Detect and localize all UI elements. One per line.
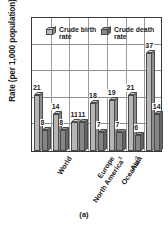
bar-value-label: 8 <box>59 119 64 127</box>
vertical-gridline <box>107 18 108 151</box>
bar-value-label: 19 <box>107 89 116 97</box>
bar-front-face <box>60 130 66 151</box>
bar-front-face <box>116 132 122 151</box>
bar-death-latin-america-and-the-caribbean <box>135 135 141 151</box>
bar-death-africa <box>154 114 160 151</box>
bar-front-face <box>42 130 48 151</box>
y-axis-title: Rate (per 1,000 population) <box>8 0 17 110</box>
bar-death-oceania <box>98 132 104 151</box>
vertical-gridline <box>51 18 52 151</box>
bar-death-north-america <box>60 130 66 151</box>
bar-birth-europe <box>71 122 77 151</box>
figure-panel: Rate (per 1,000 population) 01020304050 … <box>0 0 168 227</box>
bar-value-label: 18 <box>89 92 98 100</box>
cube-icon <box>46 27 55 35</box>
bar-front-face <box>135 135 141 151</box>
bar-value-label: 14 <box>51 103 60 111</box>
bar-side-face <box>160 111 163 151</box>
x-axis-label-world: World <box>57 155 74 176</box>
x-axis-label-latin-america-and-the-caribbean: Latin America and the Caribbean <box>166 155 168 214</box>
bar-death-asia <box>116 132 122 151</box>
bar-value-label: 14 <box>152 103 161 111</box>
bar-value-label: 21 <box>32 84 41 92</box>
bar-value-label: 7 <box>115 121 120 129</box>
bar-front-face <box>79 122 85 151</box>
bar-death-world <box>42 130 48 151</box>
bar-value-label: 11 <box>77 111 85 119</box>
bar-value-label: 8 <box>40 119 45 127</box>
figure-caption: (a) <box>0 210 168 219</box>
bar-front-face <box>98 132 104 151</box>
cube-icon <box>101 27 110 35</box>
bar-value-label: 6 <box>134 124 139 132</box>
bar-value-label: 7 <box>96 121 101 129</box>
legend-label-birth: Crude birthrate <box>59 26 96 41</box>
legend-label-death: Crude deathrate <box>114 26 154 41</box>
plot-area: 21814811111871972163714 Crude birthrate … <box>31 17 162 152</box>
bar-value-label: 37 <box>145 42 154 50</box>
bar-death-europe <box>79 122 85 151</box>
bar-value-label: 21 <box>126 84 135 92</box>
x-axis-label-asia: Asia <box>129 155 144 172</box>
bar-front-face <box>71 122 77 151</box>
bar-front-face <box>154 114 160 151</box>
